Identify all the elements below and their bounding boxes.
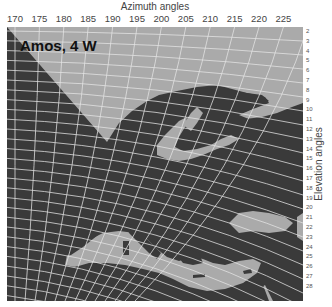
elevation-tick-24: 24 — [306, 244, 313, 250]
azimuth-tick-175: 175 — [31, 13, 47, 24]
elevation-tick-11: 11 — [306, 116, 312, 122]
azimuth-tick-185: 185 — [80, 13, 96, 24]
azimuth-tick-225: 225 — [275, 13, 291, 24]
elevation-tick-20: 20 — [306, 204, 313, 210]
elevation-tick-26: 26 — [306, 263, 313, 269]
elevation-tick-2: 2 — [306, 28, 309, 34]
elevation-axis-title: Elevation angles — [313, 127, 324, 200]
azimuth-tick-205: 205 — [178, 13, 194, 24]
elevation-tick-22: 22 — [306, 224, 313, 230]
elevation-tick-7: 7 — [306, 77, 309, 83]
elevation-tick-25: 25 — [306, 253, 313, 259]
elevation-tick-6: 6 — [306, 67, 309, 73]
elevation-tick-5: 5 — [306, 57, 309, 63]
map-graphic — [7, 27, 303, 301]
elevation-tick-27: 27 — [306, 273, 313, 279]
elevation-tick-23: 23 — [306, 234, 313, 240]
azimuth-tick-195: 195 — [129, 13, 145, 24]
azimuth-tick-220: 220 — [251, 13, 267, 24]
coverage-map — [7, 27, 303, 301]
satellite-label: Amos, 4 W — [20, 37, 97, 54]
elevation-tick-8: 8 — [306, 87, 309, 93]
azimuth-tick-215: 215 — [227, 13, 243, 24]
azimuth-tick-180: 180 — [56, 13, 72, 24]
azimuth-tick-170: 170 — [7, 13, 23, 24]
elevation-tick-3: 3 — [306, 38, 309, 44]
elevation-tick-4: 4 — [306, 48, 309, 54]
elevation-tick-10: 10 — [306, 106, 313, 112]
elevation-tick-21: 21 — [306, 214, 313, 220]
azimuth-tick-210: 210 — [202, 13, 218, 24]
elevation-tick-9: 9 — [306, 97, 309, 103]
elevation-tick-28: 28 — [306, 283, 313, 289]
azimuth-tick-200: 200 — [153, 13, 169, 24]
azimuth-axis-title: Azimuth angles — [0, 1, 310, 12]
azimuth-tick-190: 190 — [105, 13, 121, 24]
